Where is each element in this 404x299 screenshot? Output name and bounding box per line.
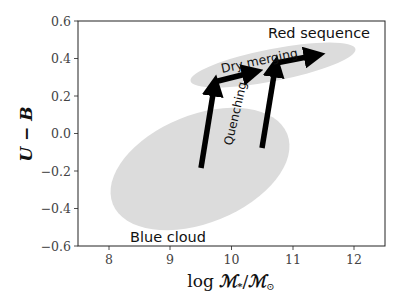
red-sequence-label: Red sequence [268,25,370,41]
x-label-sun: ⊙ [266,281,274,292]
y-tick-label: 0.0 [51,126,71,141]
y-tick-label: 0.4 [51,51,71,66]
blue-cloud-label: Blue cloud [130,229,206,245]
x-tick-label: 9 [166,252,174,267]
x-tick-label: 8 [105,252,113,267]
x-axis: 8 9 10 11 12 [105,246,362,267]
y-tick-label: 0.6 [51,14,71,29]
y-tick-label: 0.2 [51,89,71,104]
chart: Red sequence Dry merging Quenching Blue … [0,0,404,299]
x-label-log: log [187,271,219,291]
x-tick-label: 10 [224,252,240,267]
svg-text:log ℳ*/ℳ⊙: log ℳ*/ℳ⊙ [187,271,274,292]
y-tick-label: −0.2 [41,164,71,179]
y-axis-label: U − B [16,106,36,161]
x-tick-label: 12 [346,252,362,267]
y-tick-label: −0.4 [41,201,71,216]
x-tick-label: 11 [285,252,301,267]
y-axis: 0.6 0.4 0.2 0.0 −0.2 −0.4 −0.6 [41,14,78,254]
x-axis-label: log ℳ*/ℳ⊙ [187,271,274,292]
y-tick-label: −0.6 [41,239,71,254]
